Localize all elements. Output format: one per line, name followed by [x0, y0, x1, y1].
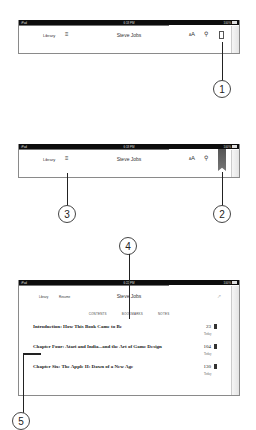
bookmark-filled-icon[interactable] — [218, 149, 226, 171]
battery-percent: 100% — [223, 21, 231, 25]
bookmark-icon — [214, 324, 217, 329]
search-icon[interactable]: ⚲ — [204, 30, 208, 37]
page-edge — [231, 150, 239, 177]
bookmark-title[interactable]: Chapter Six: The Apple II: Dawn of a New… — [33, 364, 133, 369]
bookmark-title[interactable]: Chapter Four: Atari and India...and the … — [33, 344, 162, 349]
tab-bookmarks[interactable]: BOOKMARKS — [122, 312, 143, 316]
callout-2: 2 — [213, 205, 231, 223]
battery: 100% — [223, 145, 237, 149]
bookmark-icon — [214, 364, 217, 369]
battery-icon — [232, 281, 237, 284]
battery-percent: 100% — [223, 281, 231, 285]
toolbar: Library ≡ Steve Jobs AA ⚲ — [19, 150, 239, 168]
callout-5: 5 — [12, 412, 30, 430]
font-size-icon[interactable]: AA — [189, 31, 195, 37]
page-edge — [231, 26, 239, 53]
bookmark-title[interactable]: Introduction: How This Book Came to Be — [33, 324, 122, 329]
battery: 100% — [223, 281, 237, 285]
bookmark-page: 104 — [199, 344, 211, 349]
bookmark-page: 130 — [199, 364, 211, 369]
bookmark-date: Today — [204, 332, 211, 336]
screen-1-panel: iPad 6:18 PM 100% Library ≡ Steve Jobs A… — [18, 20, 240, 54]
battery: 100% — [223, 21, 237, 25]
bookmark-date: Today — [204, 372, 211, 376]
bookmark-date: Today — [204, 352, 211, 356]
battery-icon — [232, 145, 237, 148]
callout-1-leader — [222, 42, 223, 82]
callout-1: 1 — [213, 80, 231, 98]
callout-5-leader — [23, 353, 24, 415]
callout-5-leader-h — [23, 353, 41, 355]
battery-icon — [232, 21, 237, 24]
share-icon[interactable]: ↗ — [217, 293, 221, 299]
search-icon[interactable]: ⚲ — [204, 154, 208, 161]
callout-4: 4 — [119, 237, 137, 255]
callout-4-leader — [129, 254, 130, 319]
tab-notes[interactable]: NOTES — [158, 312, 169, 316]
callout-3-leader — [67, 173, 68, 207]
font-size-icon[interactable]: AA — [189, 155, 195, 161]
callout-3: 3 — [58, 205, 76, 223]
bookmark-page: 23 — [199, 324, 211, 329]
bookmark-icon — [214, 344, 217, 349]
bookmark-outline-icon[interactable] — [219, 31, 224, 39]
toolbar: Library ≡ Steve Jobs AA ⚲ — [19, 26, 239, 44]
tab-contents[interactable]: CONTENTS — [89, 312, 107, 316]
page-edge — [231, 286, 239, 395]
battery-percent: 100% — [223, 145, 231, 149]
screen-2-panel: iPad 6:18 PM 100% Library ≡ Steve Jobs A… — [18, 144, 240, 178]
callout-2-leader — [222, 172, 223, 207]
